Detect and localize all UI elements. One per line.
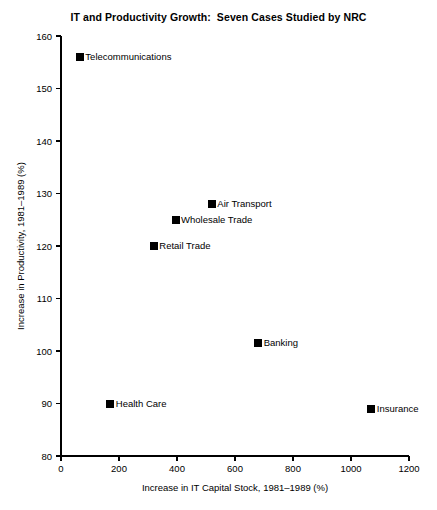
x-tick-label: 600 (227, 463, 243, 474)
data-point-label: Banking (264, 337, 298, 348)
data-point-marker (76, 53, 84, 61)
data-point[interactable]: Wholesale Trade (172, 214, 253, 225)
y-tick-label: 80 (41, 451, 52, 462)
y-tick-label: 140 (36, 136, 52, 147)
data-points: TelecommunicationsAir TransportWholesale… (76, 51, 419, 414)
data-point-marker (106, 400, 114, 408)
data-point-marker (254, 339, 262, 347)
x-tick-label: 1000 (340, 463, 361, 474)
x-tick-label: 0 (58, 463, 63, 474)
x-tick-label: 200 (111, 463, 127, 474)
y-tick-label: 160 (36, 31, 52, 42)
data-point[interactable]: Air Transport (208, 198, 272, 209)
data-point-marker (208, 200, 216, 208)
data-point-marker (367, 405, 375, 413)
x-tick-label: 400 (169, 463, 185, 474)
x-tick-label: 800 (285, 463, 301, 474)
x-axis-title: Increase in IT Capital Stock, 1981–1989 … (142, 482, 328, 493)
data-point[interactable]: Retail Trade (150, 240, 211, 251)
data-point-label: Insurance (377, 403, 419, 414)
data-point[interactable]: Health Care (106, 398, 166, 409)
data-point[interactable]: Insurance (367, 403, 418, 414)
data-point-label: Retail Trade (159, 240, 210, 251)
y-tick-label: 150 (36, 83, 52, 94)
data-point-marker (150, 242, 158, 250)
x-tick-label: 1200 (398, 463, 419, 474)
data-point[interactable]: Telecommunications (76, 51, 172, 62)
data-point-label: Wholesale Trade (181, 214, 252, 225)
data-point-label: Air Transport (217, 198, 272, 209)
data-point-label: Telecommunications (85, 51, 171, 62)
y-tick-label: 100 (36, 346, 52, 357)
data-point-marker (172, 216, 180, 224)
y-axis-ticks: 8090100110120130140150160 (36, 31, 61, 462)
data-point[interactable]: Banking (254, 337, 298, 348)
chart-container: IT and Productivity Growth: Seven Cases … (0, 0, 437, 510)
y-tick-label: 120 (36, 241, 52, 252)
y-tick-label: 110 (37, 293, 52, 304)
x-axis-ticks: 020040060080010001200 (58, 456, 419, 474)
y-axis-title: Increase in Productivity, 1981–1989 (%) (15, 162, 26, 330)
scatter-plot: 8090100110120130140150160 02004006008001… (0, 0, 437, 510)
data-point-label: Health Care (116, 398, 167, 409)
y-tick-label: 90 (41, 398, 52, 409)
y-tick-label: 130 (36, 188, 52, 199)
